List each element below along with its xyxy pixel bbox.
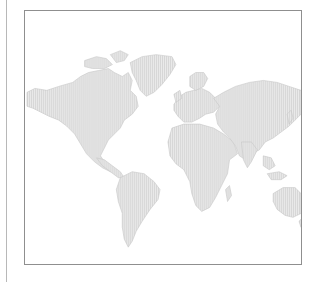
region-scandinavia bbox=[190, 73, 208, 91]
region-greenland bbox=[130, 55, 176, 97]
region-central-america bbox=[96, 158, 124, 178]
region-indonesia bbox=[267, 172, 287, 180]
region-arctic-islands-2 bbox=[110, 51, 128, 63]
region-north-america bbox=[27, 69, 138, 172]
region-new-zealand bbox=[299, 219, 301, 227]
region-madagascar bbox=[226, 186, 232, 202]
region-south-america bbox=[116, 172, 160, 247]
page bbox=[0, 0, 320, 282]
side-rule-line bbox=[6, 0, 7, 282]
world-map-frame bbox=[24, 10, 302, 265]
region-arctic-islands bbox=[85, 57, 113, 69]
world-map bbox=[25, 11, 301, 264]
region-southeast-asia bbox=[263, 156, 275, 170]
region-australia bbox=[273, 188, 301, 218]
